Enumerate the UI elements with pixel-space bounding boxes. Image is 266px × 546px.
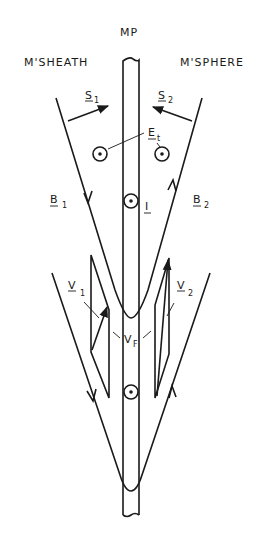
magnetosphere-label: M'SPHERE (180, 56, 244, 69)
v2-label: V (177, 279, 185, 292)
field-line-lower (52, 273, 210, 491)
svg-text:t: t (157, 134, 160, 143)
s1-label: S (85, 89, 92, 102)
b1-label: B (50, 193, 58, 206)
svg-text:2: 2 (204, 201, 209, 210)
svg-text:2: 2 (168, 96, 173, 105)
magnetopause-column (123, 58, 139, 517)
lower-out-of-page-icon (124, 385, 138, 399)
svg-text:1: 1 (94, 96, 99, 105)
svg-text:1: 1 (80, 289, 85, 298)
et-out-of-page-left-icon (93, 147, 107, 161)
b2-direction-arrow-icon (168, 180, 176, 191)
et-out-of-page-right-icon (155, 147, 169, 161)
b2-label: B (193, 193, 201, 206)
v2-velocity-parallelogram (155, 258, 169, 398)
magnetopause-reconnection-diagram: MP M'SHEATH M'SPHERE S 1 S 2 E t (0, 0, 266, 546)
magnetosheath-label: M'SHEATH (24, 56, 88, 69)
et-label: E (148, 126, 155, 139)
svg-text:F: F (133, 340, 138, 349)
s2-poynting-arrow-icon (153, 107, 192, 121)
svg-text:1: 1 (62, 201, 67, 210)
mp-label: MP (120, 26, 138, 39)
current-label: I (145, 200, 148, 213)
v1-velocity-parallelogram (91, 255, 109, 398)
svg-text:2: 2 (188, 289, 193, 298)
v1-label: V (68, 279, 76, 292)
b2-lower-arrow-icon (169, 386, 176, 398)
s2-label: S (158, 89, 165, 102)
current-out-of-page-icon (124, 194, 138, 208)
vf-label: V (124, 333, 132, 346)
s1-poynting-arrow-icon (68, 106, 108, 121)
